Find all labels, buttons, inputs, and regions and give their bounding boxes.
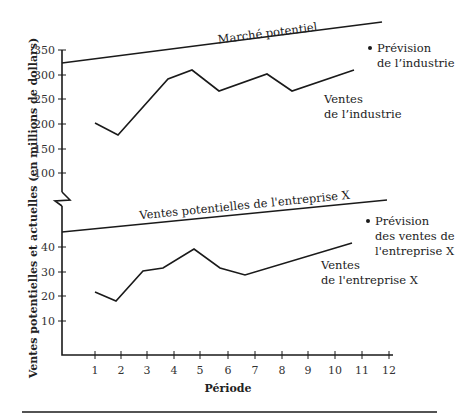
- company-forecast-label-2: des ventes de: [375, 229, 455, 243]
- tick-label: 20: [41, 290, 55, 303]
- company-forecast-bullet-icon: [366, 219, 370, 223]
- industry-forecast-label-2: de l’industrie: [377, 56, 455, 70]
- tick-label: 4: [171, 364, 178, 377]
- tick-label: 11: [355, 364, 369, 377]
- y-axis-title: Ventes potentielles et actuelles (en mil…: [27, 38, 40, 380]
- company-potential-label: Ventes potentielles de l'entreprise X: [138, 188, 351, 223]
- industry-forecast-label-1: Prévision: [377, 41, 432, 55]
- tick-label: 12: [382, 364, 396, 377]
- tick-label: 6: [225, 364, 232, 377]
- y-axis-break: [55, 192, 70, 206]
- industry-sales-label-1: Ventes: [323, 92, 363, 106]
- company-sales-label-2: de l'entreprise X: [321, 273, 419, 287]
- industry-sales-label-2: de l’industrie: [324, 107, 402, 121]
- company-forecast-label-3: l'entreprise X: [375, 244, 455, 258]
- market-potential-label: Marché potentiel: [217, 20, 319, 47]
- tick-label: 1: [92, 364, 99, 377]
- tick-label: 8: [279, 364, 286, 377]
- company-sales-label-1: Ventes: [320, 258, 360, 272]
- tick-label: 30: [41, 266, 55, 279]
- x-axis-title: Période: [205, 382, 252, 395]
- company-forecast-label-1: Prévision: [375, 214, 430, 228]
- tick-label: 2: [118, 364, 125, 377]
- tick-label: 40: [41, 241, 55, 254]
- tick-label: 3: [144, 364, 151, 377]
- tick-label: 7: [252, 364, 259, 377]
- tick-label: 10: [41, 315, 55, 328]
- chart-canvas: 350 300 250 200 150 100 40 30 20 10 1 2 …: [0, 0, 458, 417]
- company-sales-line: [95, 243, 352, 301]
- tick-label: 5: [197, 364, 204, 377]
- industry-sales-line: [95, 70, 354, 135]
- tick-label: 9: [305, 364, 312, 377]
- tick-label: 10: [328, 364, 342, 377]
- industry-forecast-bullet-icon: [368, 46, 372, 50]
